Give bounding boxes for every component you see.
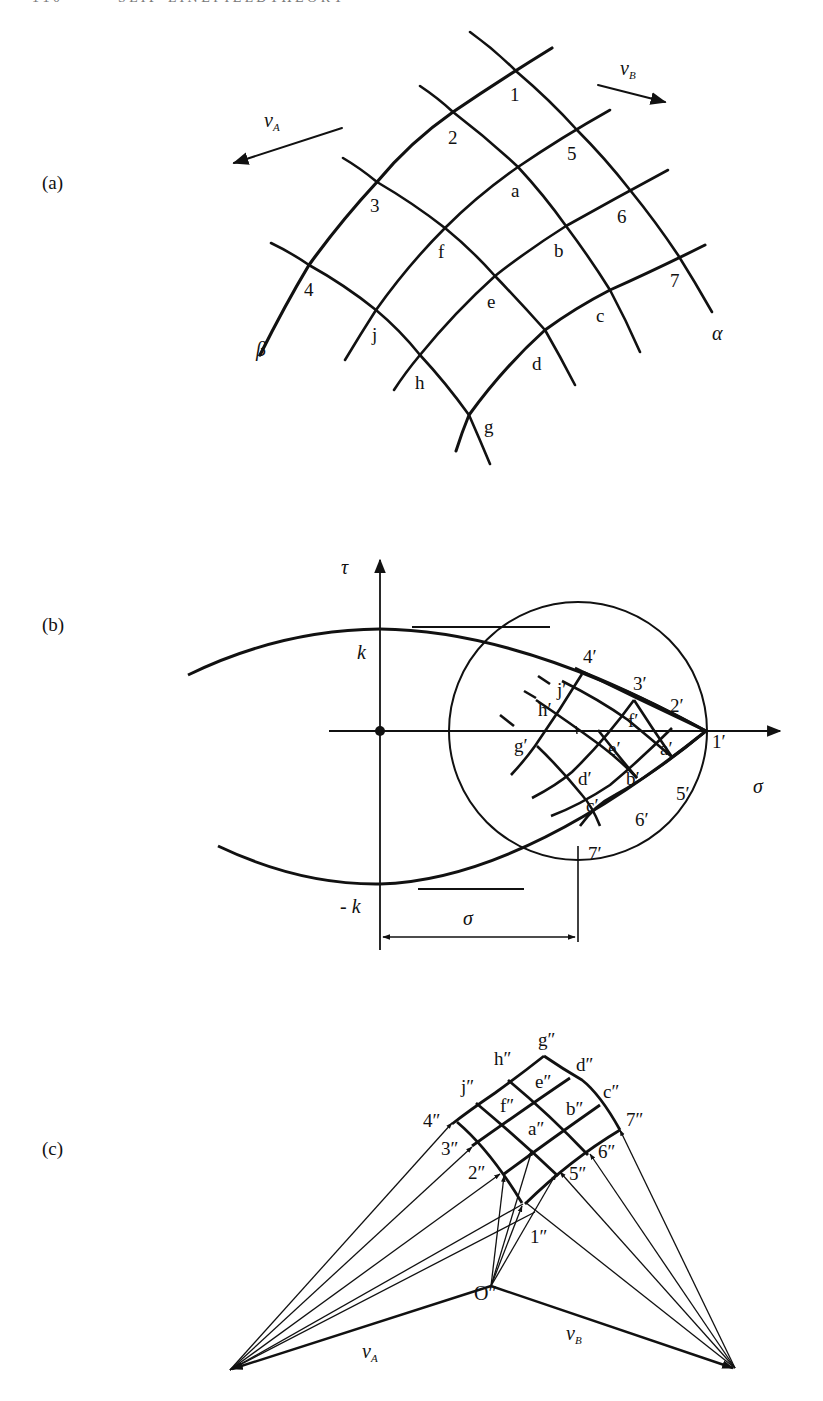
alpha-family-label: α [712, 322, 723, 344]
panel-b-stress-plane [188, 560, 780, 950]
node-g: g [484, 416, 494, 437]
vector-vb [491, 1286, 733, 1368]
node-e: e [487, 291, 495, 312]
hodo-va-label: vA [362, 1340, 378, 1364]
node-3: 3 [370, 195, 380, 216]
node-6pp: 6″ [598, 1141, 615, 1162]
sigma-label: σ [753, 775, 764, 797]
node-7: 7 [670, 270, 680, 291]
yield-envelope-lower [218, 731, 706, 884]
node-1pp: 1″ [530, 1226, 547, 1247]
ray-right-6 [590, 1154, 735, 1368]
node-7pp: 7″ [626, 1109, 643, 1130]
node-fpp: f″ [500, 1095, 514, 1116]
tick-mark-3 [500, 715, 514, 726]
node-ap: a′ [660, 738, 673, 759]
ray-right-7 [620, 1130, 735, 1368]
figure-canvas: vA vB 1 2 3 4 5 a f j 6 b e h 7 c d g α … [0, 0, 823, 1401]
node-1: 1 [510, 84, 520, 105]
mesh-line-ap [672, 731, 706, 757]
node-ep: e′ [608, 738, 621, 759]
node-1p: 1′ [712, 731, 726, 752]
node-5p: 5′ [676, 783, 690, 804]
node-5pp: 5″ [569, 1163, 586, 1184]
velocity-label-va: vA [264, 109, 280, 133]
k-label: k [357, 641, 367, 663]
hodo-vb-label: vB [566, 1322, 582, 1346]
ray-right-1 [525, 1202, 735, 1368]
node-4: 4 [304, 279, 314, 300]
node-gpp: g″ [538, 1029, 555, 1050]
node-j: j [371, 324, 377, 345]
node-bpp: b″ [566, 1098, 583, 1119]
beta-line-3 [394, 170, 668, 390]
panel-b-labels: τ σ k - k σ 1′ 2′ 3′ 4′ 5′ 6′ 7′ a′ b′ c… [340, 556, 764, 929]
node-b: b [554, 240, 564, 261]
node-dpp: d″ [576, 1054, 593, 1075]
velocity-arrow-b [598, 85, 665, 102]
node-fp: f′ [628, 710, 638, 731]
node-5: 5 [567, 143, 577, 164]
velocity-label-vb: vB [620, 57, 636, 81]
node-app: a″ [528, 1118, 544, 1139]
node-c: c [596, 305, 604, 326]
node-cpp: c″ [603, 1081, 619, 1102]
beta-family-label: β [255, 338, 266, 361]
tick-mark-1 [538, 676, 550, 684]
velocity-arrow-a [234, 128, 342, 163]
node-3p: 3′ [633, 673, 647, 694]
node-3pp: 3″ [441, 1138, 458, 1159]
node-f: f [438, 241, 445, 262]
node-bp: b′ [626, 768, 640, 789]
node-jp: j′ [556, 679, 566, 700]
panel-a-slip-line-field [234, 32, 712, 464]
node-h: h [415, 372, 425, 393]
sigma-dimension-label: σ [463, 907, 474, 929]
minus-k-label: - k [340, 895, 362, 917]
node-2p: 2′ [670, 695, 684, 716]
ray-left-3 [230, 1147, 472, 1370]
origin-label: O″ [474, 1282, 497, 1304]
node-d: d [532, 353, 542, 374]
node-2: 2 [448, 127, 458, 148]
node-4p: 4′ [583, 646, 597, 667]
node-7p: 7′ [588, 843, 602, 864]
node-hpp: h″ [494, 1048, 511, 1069]
node-gp: g′ [514, 735, 528, 756]
node-hp: h′ [538, 699, 552, 720]
node-6p: 6′ [635, 809, 649, 830]
node-6: 6 [617, 206, 627, 227]
node-a: a [511, 180, 520, 201]
node-jpp: j″ [460, 1076, 474, 1097]
tau-label: τ [341, 556, 349, 578]
origin-dot [375, 726, 385, 736]
node-dp: d′ [578, 768, 592, 789]
tick-mark-2 [524, 691, 536, 698]
node-cp: c′ [586, 795, 599, 816]
node-4pp: 4″ [423, 1110, 440, 1131]
tick-mark-4 [576, 726, 577, 734]
node-2pp: 2″ [468, 1162, 485, 1183]
panel-c-hodograph [230, 1056, 735, 1370]
node-epp: e″ [535, 1071, 551, 1092]
panel-a-labels: vA vB 1 2 3 4 5 a f j 6 b e h 7 c d g α … [255, 57, 723, 437]
